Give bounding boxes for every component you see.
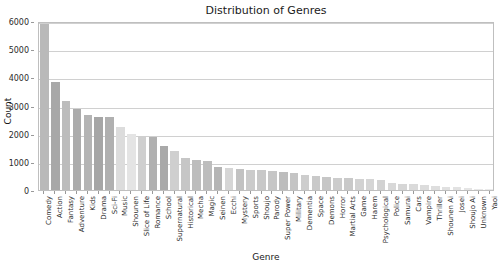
x-tick-mark [402,191,403,194]
x-tick-label: Ecchi [231,196,238,215]
bar [464,188,472,190]
bar [474,189,482,190]
x-tick-label: Action [57,196,64,218]
bar [333,178,341,190]
bar [409,184,417,190]
bar [149,137,157,190]
x-tick-mark [109,191,110,194]
y-tick-label: 1000 [9,158,29,167]
x-tick-label: Shounen [133,196,140,227]
x-tick-label: Demons [329,196,336,225]
x-tick-mark [54,191,55,194]
bar [170,151,178,190]
x-tick-mark [130,191,131,194]
x-tick-mark [304,191,305,194]
x-tick-label: School [166,196,173,219]
x-tick-label: Dementia [307,196,314,230]
x-tick-mark [119,191,120,194]
bar [301,175,309,190]
bar [366,179,374,190]
x-tick-label: Harem [372,196,379,219]
x-tick-label: Sci-Fi [112,196,119,214]
plot-area [38,22,494,191]
y-tick-mark [31,163,34,164]
x-tick-mark [261,191,262,194]
bar [420,185,428,190]
x-tick-mark [326,191,327,194]
x-tick-label: Shoujo [264,196,271,220]
bar [257,170,265,190]
bar [268,171,276,190]
bar [62,101,70,190]
x-tick-mark [391,191,392,194]
x-tick-mark [228,191,229,194]
bar [105,117,113,190]
y-tick-label: 2000 [9,130,29,139]
x-tick-mark [195,191,196,194]
x-tick-mark [434,191,435,194]
x-tick-label: Super Power [285,196,292,240]
x-tick-mark [163,191,164,194]
y-tick-mark [31,135,34,136]
x-tick-mark [369,191,370,194]
x-tick-mark [347,191,348,194]
y-tick-label: 3000 [9,102,29,111]
y-tick-label: 6000 [9,18,29,27]
x-tick-label: Parody [274,196,281,220]
x-tick-label: Mystery [242,196,249,224]
x-tick-label: Yaoi [492,196,499,210]
chart-title: Distribution of Genres [38,4,494,18]
x-tick-mark [87,191,88,194]
x-tick-mark [174,191,175,194]
y-tick-mark [31,191,34,192]
x-tick-label: Drama [101,196,108,220]
x-tick-mark [445,191,446,194]
x-tick-label: Comedy [46,196,53,225]
x-tick-mark [456,191,457,194]
x-tick-label: Sports [253,196,260,218]
bar-series [39,23,493,190]
x-tick-mark [76,191,77,194]
bar [388,183,396,190]
bar [279,172,287,190]
x-tick-mark [98,191,99,194]
x-tick-label: Space [318,196,325,217]
y-tick-label: 5000 [9,46,29,55]
bar [322,177,330,190]
bar [344,178,352,190]
bar [442,187,450,190]
x-tick-mark [423,191,424,194]
bar [51,82,59,190]
bar [192,160,200,190]
x-tick-label: Music [122,196,129,216]
x-tick-label: Horror [340,196,347,218]
bar [290,173,298,190]
x-tick-label: Psychological [383,196,390,243]
x-tick-mark [271,191,272,194]
bar [236,169,244,190]
x-tick-label: Police [394,196,401,216]
x-tick-mark [467,191,468,194]
bar [40,24,48,190]
bar [138,136,146,190]
x-tick-mark [413,191,414,194]
x-tick-label: Magic [209,196,216,217]
x-tick-mark [489,191,490,194]
x-tick-label: Shounen Ai [448,196,455,236]
bar [203,161,211,190]
x-tick-mark [380,191,381,194]
bar [246,170,254,190]
bar [312,176,320,190]
y-tick-mark [31,22,34,23]
x-tick-mark [43,191,44,194]
x-tick-label: Supernatural [177,196,184,241]
bar [377,180,385,190]
x-tick-label: Mecha [198,196,205,219]
y-tick-mark [31,78,34,79]
x-tick-label: Unknown [481,196,488,229]
y-tick-mark [31,107,34,108]
bar [73,109,81,190]
x-tick-mark [141,191,142,194]
x-tick-label: Vampire [426,196,433,225]
x-tick-mark [217,191,218,194]
